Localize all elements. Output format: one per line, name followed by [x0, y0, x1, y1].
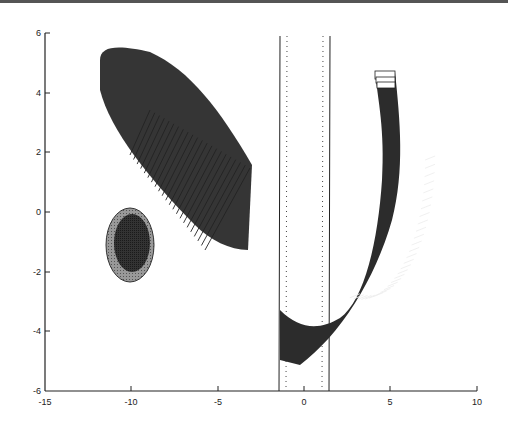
u-top-boxes: [375, 71, 395, 88]
y-tick-neg4: -4: [33, 326, 41, 336]
y-tick-neg2: -2: [33, 267, 41, 277]
x-tick-neg5: -5: [214, 397, 222, 407]
y-tick-2: 2: [36, 147, 41, 157]
x-tick-neg10: -10: [124, 397, 137, 407]
x-tick-0: 0: [301, 397, 306, 407]
y-tick-labels: 6 4 2 0 -2 -4 -6: [33, 28, 41, 396]
y-tick-0: 0: [36, 207, 41, 217]
x-tick-labels: -15 -10 -5 0 5 10: [38, 397, 482, 407]
y-tick-neg6: -6: [33, 386, 41, 396]
plot-canvas: 6 4 2 0 -2 -4 -6 -15 -10 -5 0 5 10: [0, 0, 508, 425]
obstacle-ellipse: [106, 208, 154, 282]
y-tick-4: 4: [36, 88, 41, 98]
x-tick-10: 10: [472, 397, 482, 407]
x-tick-neg15: -15: [38, 397, 51, 407]
y-tick-6: 6: [36, 28, 41, 38]
swept-box-trajectory-u: [280, 72, 400, 365]
x-tick-5: 5: [387, 397, 392, 407]
